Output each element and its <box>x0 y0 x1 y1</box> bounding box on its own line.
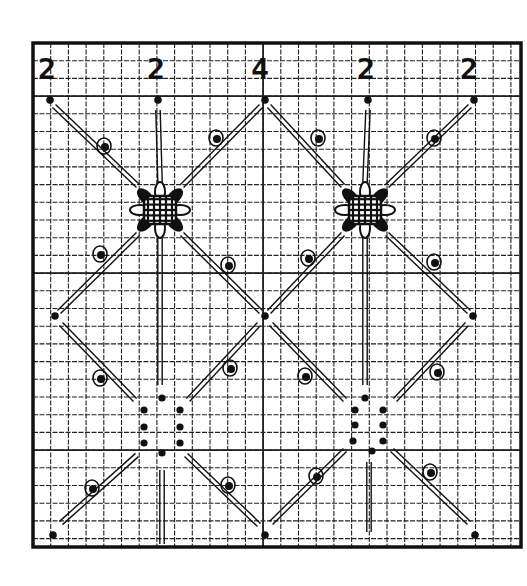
lace-pattern-diagram: 2 2 4 2 2 <box>0 0 527 586</box>
picot-knot <box>313 473 321 481</box>
bar-diagonal <box>273 322 347 398</box>
anchor-dot <box>46 96 54 104</box>
picot-knot <box>305 255 313 263</box>
bar-diagonal <box>184 457 257 527</box>
stitch-count-5: 2 <box>460 55 478 84</box>
bar-diagonal <box>385 236 467 314</box>
anchor-dot <box>469 312 477 320</box>
bar-diagonal <box>188 453 261 523</box>
group-dot <box>349 437 356 444</box>
bar-diagonal <box>52 108 136 188</box>
picot-knot <box>427 469 435 477</box>
group-dot <box>140 423 147 430</box>
bar-vertical <box>363 110 366 182</box>
bar-diagonal <box>61 236 140 314</box>
group-dot <box>351 421 358 428</box>
group-dot <box>140 406 147 413</box>
group-dot <box>379 406 386 413</box>
pattern-graph-paper <box>0 0 527 586</box>
picot-knot <box>97 375 105 383</box>
bar-diagonal <box>62 457 138 525</box>
picot-knot <box>302 373 310 381</box>
anchor-dot <box>154 96 162 104</box>
group-dot <box>140 439 147 446</box>
group-dot <box>351 406 358 413</box>
bar-diagonal <box>389 108 472 188</box>
anchor-dot <box>470 96 478 104</box>
bar-diagonal <box>60 453 136 521</box>
group-dot <box>361 394 368 401</box>
group-dot <box>176 423 183 430</box>
anchor-dot <box>51 312 59 320</box>
picot-knot <box>431 135 439 143</box>
bar-diagonal <box>267 107 341 187</box>
stitch-count-2: 2 <box>147 55 165 84</box>
bar-vertical <box>156 110 158 182</box>
picot-knot <box>431 259 439 267</box>
stitch-count-3: 4 <box>251 55 269 84</box>
group-dot <box>176 406 183 413</box>
picot-knot <box>213 135 221 143</box>
picot-knot <box>227 365 235 373</box>
stitch-count-1: 2 <box>38 55 56 84</box>
anchor-dot <box>364 96 372 104</box>
bar-diagonal <box>385 104 468 184</box>
bar-diagonal <box>394 448 471 521</box>
picot-knot <box>315 135 323 143</box>
bar-diagonal <box>57 232 136 310</box>
anchor-dot <box>49 531 57 539</box>
bar-diagonal <box>273 452 347 525</box>
bar-diagonal <box>186 322 257 398</box>
bar-diagonal <box>63 322 137 398</box>
group-dot <box>158 394 165 401</box>
group-dot <box>158 449 165 456</box>
anchor-dot <box>261 312 269 320</box>
stitch-count-4: 2 <box>357 55 375 84</box>
bar-diagonal <box>59 326 133 402</box>
bar-diagonal <box>267 232 341 310</box>
picot-knot <box>225 482 233 490</box>
bar-vertical <box>160 110 162 182</box>
anchor-dot <box>261 531 269 539</box>
anchor-dot <box>471 531 479 539</box>
picot-knot <box>101 143 109 151</box>
bar-diagonal <box>390 452 467 525</box>
bar-diagonal <box>184 108 263 188</box>
picot-knot <box>225 262 233 270</box>
group-dot <box>379 421 386 428</box>
picot-knot <box>434 369 442 377</box>
picot-knot <box>97 251 105 259</box>
anchor-dot <box>261 96 269 104</box>
group-dot <box>379 437 386 444</box>
group-dot <box>368 447 375 454</box>
picot-knot <box>89 485 97 493</box>
group-dot <box>176 439 183 446</box>
